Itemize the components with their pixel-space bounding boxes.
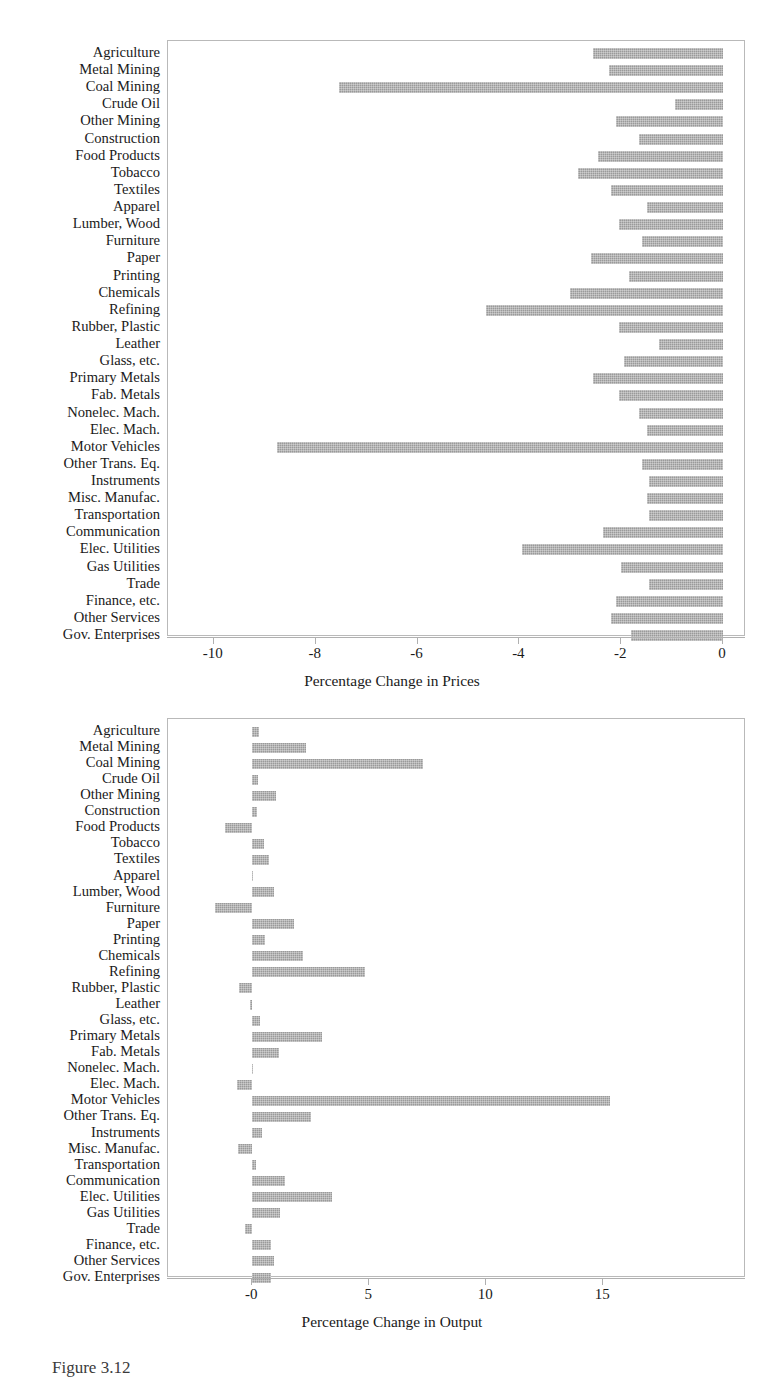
category-label: Instruments [91, 1124, 160, 1141]
bar [578, 168, 723, 179]
category-label: Furniture [106, 232, 160, 249]
category-label: Glass, etc. [100, 1011, 160, 1028]
category-label: Finance, etc. [86, 1236, 160, 1253]
category-label: Food Products [75, 818, 160, 835]
category-label: Fab. Metals [91, 386, 160, 403]
bar [252, 1176, 285, 1186]
category-label: Rubber, Plastic [71, 979, 160, 996]
bar [252, 1096, 610, 1106]
category-label: Misc. Manufac. [68, 489, 160, 506]
category-label: Printing [113, 267, 160, 284]
bar [252, 1112, 311, 1122]
category-label: Other Services [74, 1252, 160, 1269]
category-label: Lumber, Wood [73, 883, 160, 900]
bar [616, 116, 723, 127]
bar [252, 759, 423, 769]
bar [629, 271, 723, 282]
bar [598, 151, 723, 162]
bar [252, 967, 364, 977]
category-label: Chemicals [98, 947, 160, 964]
bar [522, 544, 723, 555]
category-label: Other Mining [80, 112, 160, 129]
category-label: Transportation [75, 506, 160, 523]
category-label: Construction [85, 802, 160, 819]
bar [339, 82, 723, 93]
category-label: Elec. Mach. [90, 421, 160, 438]
bar [252, 935, 265, 945]
bar [611, 613, 723, 624]
category-label: Chemicals [98, 284, 160, 301]
axis-tick-label: -6 [410, 645, 423, 662]
category-label: Finance, etc. [86, 592, 160, 609]
bar [642, 236, 723, 247]
bar [252, 791, 275, 801]
bar [245, 1224, 252, 1234]
axis-tick [722, 637, 723, 644]
bar [593, 373, 723, 384]
axis-tick-label: -0 [245, 1286, 258, 1303]
prices-chart-figure: AgricultureMetal MiningCoal MiningCrude … [0, 0, 784, 700]
category-label: Textiles [114, 181, 160, 198]
bar [647, 202, 723, 213]
axis-tick [251, 1278, 252, 1285]
bar [631, 630, 723, 641]
category-label: Trade [126, 1220, 160, 1237]
axis-tick [315, 637, 316, 644]
bar [639, 408, 723, 419]
axis-tick-label: -4 [512, 645, 525, 662]
bar [252, 1048, 279, 1058]
category-label: Other Mining [80, 786, 160, 803]
category-label: Coal Mining [86, 78, 160, 95]
bar [649, 510, 723, 521]
bar [621, 562, 723, 573]
category-label: Apparel [113, 198, 160, 215]
category-label: Construction [85, 130, 160, 147]
category-label: Instruments [91, 472, 160, 489]
category-label: Primary Metals [70, 1027, 160, 1044]
bar [609, 65, 724, 76]
bar [659, 339, 723, 350]
bar-series-output [168, 719, 744, 1276]
figure-caption: Figure 3.12 [52, 1358, 130, 1378]
bar [252, 919, 294, 929]
category-label: Crude Oil [102, 770, 160, 787]
bar [616, 596, 723, 607]
category-label: Leather [115, 995, 160, 1012]
axis-tick [602, 1278, 603, 1285]
axis-tick-label: 0 [718, 645, 726, 662]
bar [252, 1128, 261, 1138]
bar [642, 459, 723, 470]
category-label: Communication [66, 1172, 160, 1189]
bar [252, 871, 253, 881]
category-label: Printing [113, 931, 160, 948]
x-axis-output: -051015 [167, 1278, 745, 1279]
axis-tick-label: 10 [478, 1286, 493, 1303]
category-label: Elec. Mach. [90, 1075, 160, 1092]
bar [277, 442, 723, 453]
bar [619, 390, 723, 401]
category-label: Fab. Metals [91, 1043, 160, 1060]
bar [239, 983, 252, 993]
category-label: Refining [109, 963, 160, 980]
bar [252, 951, 302, 961]
bar [252, 855, 268, 865]
category-label: Refining [109, 301, 160, 318]
category-label: Rubber, Plastic [71, 318, 160, 335]
bar [647, 493, 723, 504]
category-label: Tobacco [111, 164, 160, 181]
bar [252, 1064, 253, 1074]
bar [603, 527, 723, 538]
bar [252, 807, 257, 817]
axis-tick-label: -8 [308, 645, 321, 662]
bar [649, 579, 723, 590]
bar [252, 887, 274, 897]
category-label: Other Trans. Eq. [64, 455, 160, 472]
category-label: Crude Oil [102, 95, 160, 112]
category-label: Misc. Manufac. [68, 1140, 160, 1157]
category-label: Agriculture [93, 722, 160, 739]
category-label: Metal Mining [79, 61, 160, 78]
category-label: Nonelec. Mach. [67, 404, 160, 421]
axis-tick-label: 15 [595, 1286, 610, 1303]
bar [675, 99, 723, 110]
axis-tick-label: -10 [203, 645, 223, 662]
